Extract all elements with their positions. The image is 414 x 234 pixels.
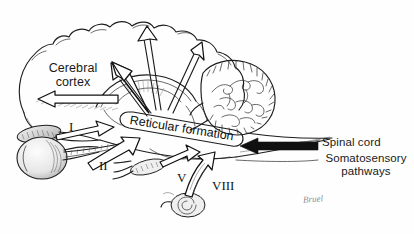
- label-cranial-nerve-ii: II: [99, 158, 108, 174]
- label-cranial-nerve-viii: VIII: [212, 178, 234, 194]
- artist-signature: Bruel: [303, 193, 324, 204]
- eyeball: [17, 137, 99, 179]
- label-somatosensory-pathways: Somatosensory pathways: [318, 152, 414, 178]
- diagram-canvas: .ln{fill:none;stroke:#1d1d1d;stroke-widt…: [0, 0, 414, 234]
- spinal-cord-arrow: [240, 138, 318, 154]
- cortex-arrow-left: [38, 91, 118, 107]
- label-spinal-cord: Spinal cord: [322, 136, 381, 149]
- label-cranial-nerve-v: V: [177, 170, 186, 186]
- label-cranial-nerve-i: I: [69, 119, 73, 135]
- label-cerebral-cortex: Cerebral cortex: [36, 61, 110, 89]
- afferent-arrow-I: [56, 121, 114, 140]
- ascending-arrow-right: [168, 42, 204, 113]
- brain-illustration: .ln{fill:none;stroke:#1d1d1d;stroke-widt…: [0, 0, 414, 234]
- cochlea: [161, 193, 205, 217]
- afferent-arrow-II: [88, 137, 140, 170]
